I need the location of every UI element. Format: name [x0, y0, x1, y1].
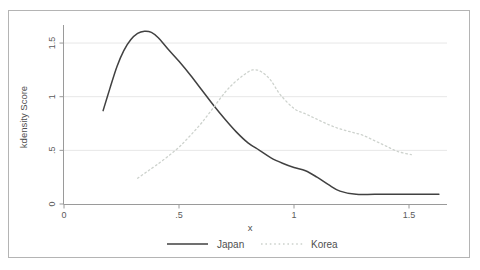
tick-labels: 0.511.50.511.5: [47, 37, 415, 220]
series-lines: [103, 31, 439, 194]
y-axis-title: kdensity Score: [18, 86, 29, 148]
x-axis-title: x: [248, 222, 253, 233]
y-tick-label: .5: [47, 147, 57, 155]
japan-density-line: [103, 31, 439, 194]
gridlines: [64, 43, 448, 150]
tick-marks: [60, 43, 410, 208]
axes: [64, 25, 448, 205]
kdensity-figure: 0.511.50.511.5 kdensity Score x Japan Ko…: [0, 0, 480, 270]
y-tick-label: 0: [47, 201, 57, 206]
legend-label-japan: Japan: [217, 239, 244, 250]
legend-label-korea: Korea: [311, 239, 338, 250]
y-tick-label: 1.5: [47, 37, 57, 50]
legend: Japan Korea: [167, 239, 338, 250]
x-tick-label: 0: [61, 210, 66, 220]
korea-density-line: [138, 70, 412, 179]
y-tick-label: 1: [47, 94, 57, 99]
kdensity-chart: 0.511.50.511.5 kdensity Score x Japan Ko…: [0, 0, 480, 270]
x-tick-label: 1.5: [403, 210, 416, 220]
x-tick-label: .5: [175, 210, 183, 220]
x-tick-label: 1: [291, 210, 296, 220]
